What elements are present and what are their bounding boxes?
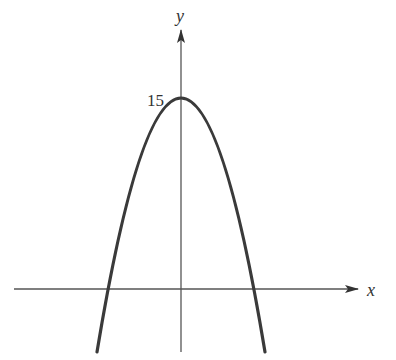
parabola-graph: x y 15: [0, 0, 396, 360]
y-intercept-label: 15: [147, 91, 164, 110]
y-axis-label: y: [174, 6, 184, 26]
x-axis-label: x: [366, 280, 375, 300]
